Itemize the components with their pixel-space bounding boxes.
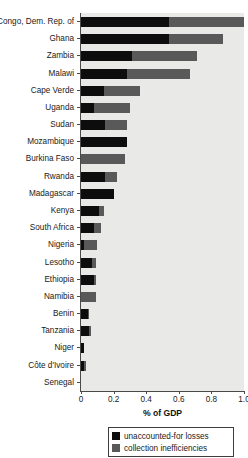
stacked-bar (81, 17, 244, 27)
bar-row: Ethiopia (0, 271, 248, 289)
category-label: Nigeria (48, 236, 74, 254)
bar-row: Sudan (0, 116, 248, 134)
bar-segment (127, 69, 191, 79)
chart-legend: unaccounted-for losses collection ineffi… (108, 427, 234, 457)
bar-row: Tanzania (0, 322, 248, 340)
y-axis-tick (77, 73, 80, 74)
y-axis-tick (77, 262, 80, 263)
bar-row: Congo, Dem. Rep. of (0, 13, 248, 31)
bar-segment (81, 326, 89, 336)
legend-item-unaccounted-for-losses: unaccounted-for losses (112, 430, 230, 442)
x-axis-tick-mark (179, 391, 180, 394)
stacked-bar (81, 223, 101, 233)
stacked-bar (81, 361, 86, 371)
bar-segment (81, 172, 105, 182)
bar-segment (104, 86, 140, 96)
y-axis-tick (77, 55, 80, 56)
bar-segment (81, 154, 125, 164)
stacked-bar (81, 69, 190, 79)
y-axis-tick (77, 158, 80, 159)
legend-label: collection inefficiencies (124, 444, 207, 453)
y-axis-tick (77, 176, 80, 177)
bar-segment (81, 275, 94, 285)
cropped-title-artifact (0, 0, 248, 5)
bar-row: Kenya (0, 202, 248, 220)
stacked-bar-chart: Congo, Dem. Rep. ofGhanaZambiaMalawiCape… (0, 0, 248, 458)
bar-segment (84, 361, 86, 371)
category-label: Niger (54, 339, 74, 357)
y-axis-tick (77, 210, 80, 211)
category-label: Rwanda (44, 168, 74, 186)
bar-segment (81, 137, 127, 147)
bar-row: Lesotho (0, 254, 248, 272)
category-label: Lesotho (45, 254, 74, 272)
y-axis-tick (77, 90, 80, 91)
bar-row: Uganda (0, 99, 248, 117)
bar-segment (92, 258, 95, 268)
stacked-bar (81, 172, 117, 182)
bar-row: Ghana (0, 30, 248, 48)
stacked-bar (81, 206, 104, 216)
y-axis-tick (77, 193, 80, 194)
category-label: Burkina Faso (26, 150, 74, 168)
bar-rows: Congo, Dem. Rep. ofGhanaZambiaMalawiCape… (0, 13, 248, 391)
bar-segment (105, 120, 126, 130)
category-label: Malawi (49, 65, 74, 83)
bar-segment (99, 206, 104, 216)
stacked-bar (81, 343, 84, 353)
bar-segment (81, 292, 96, 302)
x-axis-tick-mark (146, 391, 147, 394)
stacked-bar (81, 240, 97, 250)
stacked-bar (81, 103, 130, 113)
x-axis-ticks: 00.20.40.60.81.0 (0, 391, 248, 407)
x-axis-tick-label: 0.2 (108, 395, 119, 404)
category-label: Senegal (44, 374, 74, 392)
y-axis-tick (77, 382, 80, 383)
y-axis-tick (77, 141, 80, 142)
category-label: Cape Verde (31, 82, 74, 100)
bar-row: Madagascar (0, 185, 248, 203)
bar-segment (81, 86, 104, 96)
bar-row: Burkina Faso (0, 150, 248, 168)
y-axis-tick (77, 365, 80, 366)
category-label: Ghana (49, 30, 74, 48)
legend-swatch-icon (112, 444, 120, 452)
bar-segment (81, 51, 132, 61)
x-axis-title: % of GDP (81, 408, 244, 418)
category-label: Madagascar (29, 185, 74, 203)
bar-segment (81, 34, 169, 44)
bar-row: Niger (0, 339, 248, 357)
bar-segment (94, 223, 101, 233)
bar-segment (132, 51, 197, 61)
bar-segment (94, 103, 130, 113)
legend-swatch-icon (112, 432, 120, 440)
category-label: Uganda (45, 99, 74, 117)
bar-segment (105, 172, 116, 182)
stacked-bar (81, 326, 91, 336)
x-axis-tick-label: 0.4 (140, 395, 151, 404)
stacked-bar (81, 51, 197, 61)
stacked-bar (81, 154, 125, 164)
bar-row: Malawi (0, 65, 248, 83)
stacked-bar (81, 137, 127, 147)
bar-row: Nigeria (0, 236, 248, 254)
y-axis-tick (77, 227, 80, 228)
y-axis-tick (77, 107, 80, 108)
x-axis-tick-label: 0 (79, 395, 84, 404)
bar-segment (81, 189, 114, 199)
bar-row: Benin (0, 305, 248, 323)
bar-segment (88, 309, 90, 319)
bar-row: Cape Verde (0, 82, 248, 100)
bar-row: Mozambique (0, 133, 248, 151)
x-axis-tick-label: 0.6 (173, 395, 184, 404)
category-label: Congo, Dem. Rep. of (0, 13, 74, 31)
bar-segment (81, 103, 94, 113)
stacked-bar (81, 275, 96, 285)
stacked-bar (81, 292, 96, 302)
bar-row: Côte d'Ivoire (0, 357, 248, 375)
category-label: Benin (53, 305, 74, 323)
bar-row: Namibia (0, 288, 248, 306)
bar-row: Rwanda (0, 168, 248, 186)
bar-segment (81, 17, 169, 27)
bar-segment (81, 120, 105, 130)
